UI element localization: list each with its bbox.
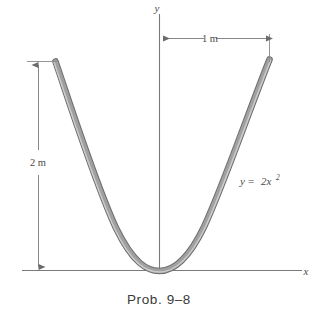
equation-term: 2x <box>261 175 272 187</box>
figure-container: y x 1 m 2 m y = 2x 2 Prob. <box>0 0 318 319</box>
equation-equals: = <box>248 175 254 187</box>
axes-group <box>22 14 302 272</box>
curve-outline <box>56 60 270 272</box>
equation-exponent: 2 <box>276 173 280 182</box>
parabola-curve <box>54 60 270 273</box>
figure-caption: Prob. 9–8 <box>0 292 318 307</box>
equation-y: y <box>239 175 245 187</box>
dimension-vertical-label: 2 m <box>30 157 46 168</box>
x-axis-label: x <box>303 265 309 277</box>
curve-body <box>56 60 270 272</box>
dimension-horizontal-label: 1 m <box>202 33 218 44</box>
problem-figure: y x 1 m 2 m y = 2x 2 <box>0 0 318 319</box>
dimension-horizontal: 1 m <box>163 33 270 62</box>
y-axis-label: y <box>154 2 160 14</box>
dimension-vertical: 2 m <box>27 62 58 268</box>
equation-label: y = 2x 2 <box>239 173 280 187</box>
curve-highlight <box>54 60 270 272</box>
